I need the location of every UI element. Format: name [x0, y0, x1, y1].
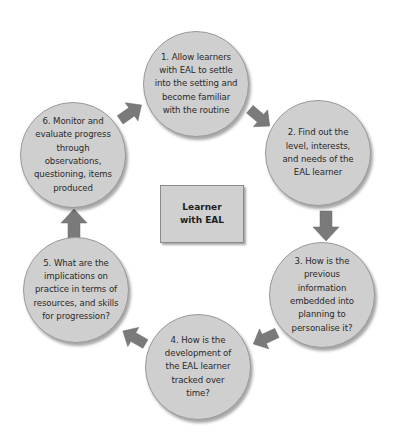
arrow-4-to-5-icon: [117, 321, 151, 353]
step-4-text: 4. How is the development of the EAL lea…: [160, 334, 236, 400]
step-3-circle: 3. How is the previous information embed…: [269, 242, 375, 348]
step-6-text: 6. Monitor and evaluate progress through…: [29, 115, 117, 195]
step-3-text: 3. How is the previous information embed…: [286, 255, 358, 335]
step-5-circle: 5. What are the implications on practice…: [23, 237, 129, 343]
step-2-circle: 2. Find out the level, interests, and ne…: [265, 100, 371, 206]
step-4-circle: 4. How is the development of the EAL lea…: [145, 314, 251, 420]
arrow-6-to-1-icon: [114, 96, 148, 129]
center-box: Learner with EAL: [160, 185, 244, 243]
arrow-2-to-3-icon: [313, 211, 339, 241]
step-6-circle: 6. Monitor and evaluate progress through…: [20, 102, 126, 208]
center-label: Learner with EAL: [180, 201, 224, 227]
eal-cycle-diagram: 1. Allow learners with EAL to settle int…: [0, 0, 396, 436]
step-1-circle: 1. Allow learners with EAL to settle int…: [143, 31, 249, 137]
step-1-text: 1. Allow learners with EAL to settle int…: [152, 51, 240, 117]
step-5-text: 5. What are the implications on practice…: [32, 257, 120, 323]
arrow-3-to-4-icon: [249, 323, 282, 354]
step-2-text: 2. Find out the level, interests, and ne…: [280, 126, 356, 179]
arrow-5-to-6-icon: [61, 209, 87, 239]
